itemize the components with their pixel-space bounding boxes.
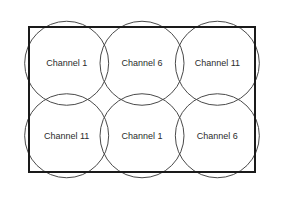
coverage-area-rectangle	[29, 27, 255, 172]
coverage-circles-group	[25, 21, 260, 178]
coverage-circle	[175, 94, 259, 178]
coverage-area-rectangle-group	[29, 27, 255, 172]
coverage-circle	[25, 21, 109, 105]
diagram-canvas	[0, 0, 284, 199]
coverage-circle	[100, 21, 184, 105]
coverage-circle	[175, 21, 259, 105]
coverage-circle	[100, 94, 184, 178]
channel-reuse-diagram: Channel 1Channel 6Channel 11Channel 11Ch…	[0, 0, 284, 199]
coverage-circle	[25, 94, 109, 178]
